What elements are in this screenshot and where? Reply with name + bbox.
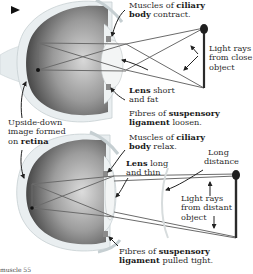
label-long-distance: Long distance	[204, 148, 239, 167]
label-text: object	[209, 62, 234, 72]
label-ciliary-relax: Muscles of ciliary body relax.	[129, 133, 205, 152]
label-bold-text: ciliary	[176, 132, 205, 142]
label-text: and fat	[129, 94, 158, 104]
label-text: and thin	[126, 167, 160, 177]
label-lens-long: Lens long and thin	[126, 159, 168, 178]
label-text: loosen.	[170, 117, 202, 127]
label-bold-text: body	[129, 9, 151, 19]
label-light-distant: Light rays from distant object	[181, 194, 232, 222]
label-lens-short: Lens short and fat	[129, 86, 175, 105]
play-triangle-icon	[11, 6, 20, 14]
label-bold-text: body	[129, 141, 151, 151]
label-bold-text: ligament	[129, 117, 170, 127]
footer-fragment: muscle 55	[0, 266, 31, 273]
label-fibres-tight: Fibres of suspensory ligament pulled tig…	[119, 247, 213, 266]
label-light-close: Light rays from close object	[209, 44, 252, 72]
label-upside-down-image: Upside-down image formed on retina	[8, 118, 66, 146]
label-text: distance	[204, 156, 239, 166]
label-text: on	[8, 136, 21, 146]
label-text: object	[181, 212, 206, 222]
label-bold-text: ligament	[119, 255, 160, 265]
label-text: pulled tight.	[160, 255, 213, 265]
label-bold-text: retina	[21, 136, 49, 146]
label-fibres-loosen: Fibres of suspensory ligament loosen.	[129, 109, 220, 128]
label-text: contract.	[151, 9, 191, 19]
label-ciliary-contract: Muscles of ciliary body contract.	[129, 1, 205, 20]
label-text: relax.	[151, 141, 177, 151]
